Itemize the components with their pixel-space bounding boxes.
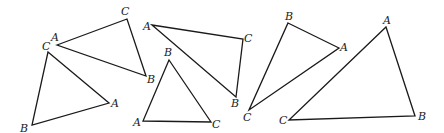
triangle-t5: BAC xyxy=(243,10,348,124)
vertex-label-c: C xyxy=(279,114,288,127)
triangle-outline xyxy=(32,52,109,125)
vertex-label-a: A xyxy=(110,97,119,110)
triangles-diagram: ACBCABACBBACBACABC xyxy=(0,0,444,133)
vertex-label-b: B xyxy=(417,110,426,123)
triangle-t6: ABC xyxy=(279,14,426,127)
vertex-label-a: A xyxy=(50,31,59,44)
triangle-outline xyxy=(289,27,415,120)
vertex-label-a: A xyxy=(132,116,141,129)
triangle-t3: ACB xyxy=(142,20,253,110)
triangle-outline xyxy=(57,19,146,76)
triangle-t4: BAC xyxy=(132,46,221,131)
vertex-label-b: B xyxy=(230,97,239,110)
vertex-label-a: A xyxy=(382,14,391,27)
vertex-label-c: C xyxy=(243,111,252,124)
vertex-label-b: B xyxy=(284,10,293,23)
triangle-outline xyxy=(152,25,243,97)
vertex-label-a: A xyxy=(339,41,348,54)
vertex-label-b: B xyxy=(146,73,155,86)
triangle-outline xyxy=(143,60,211,122)
vertex-label-c: C xyxy=(42,40,51,53)
vertex-label-b: B xyxy=(163,46,172,59)
vertex-label-c: C xyxy=(244,32,253,45)
triangle-t1: ACB xyxy=(50,5,155,86)
triangle-t2: CAB xyxy=(19,40,119,133)
vertex-label-b: B xyxy=(19,122,28,133)
vertex-label-a: A xyxy=(142,20,151,33)
vertex-label-c: C xyxy=(121,5,130,18)
vertex-label-c: C xyxy=(212,118,221,131)
triangle-outline xyxy=(249,23,339,110)
